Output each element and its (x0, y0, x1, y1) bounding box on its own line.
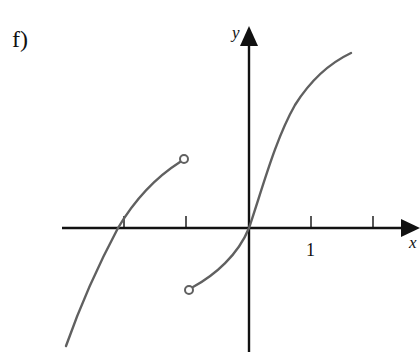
tick-label-1: 1 (306, 240, 315, 260)
open-circle-upper (180, 155, 188, 163)
right-branch-curve (193, 53, 351, 287)
y-axis-label: y (230, 23, 240, 42)
open-circle-lower (185, 286, 193, 294)
x-axis-label: x (408, 233, 417, 252)
function-graph: 1 x y (0, 0, 420, 352)
left-branch-curve (66, 162, 180, 346)
y-axis-arrow-icon (240, 26, 258, 46)
